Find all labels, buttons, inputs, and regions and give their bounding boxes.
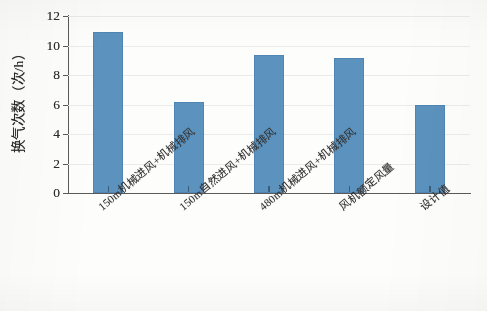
y-axis-tick-label: 2 [34, 156, 60, 172]
y-axis-tick [63, 134, 68, 135]
y-axis-tick-label: 12 [34, 8, 60, 24]
gridline [68, 46, 470, 47]
y-axis-tick-label: 6 [34, 97, 60, 113]
y-axis-tick [63, 46, 68, 47]
y-axis-tick [63, 193, 68, 194]
y-axis-tick [63, 164, 68, 165]
y-axis-tick-labels: 024681012 [28, 0, 60, 311]
y-axis-tick [63, 105, 68, 106]
gridline [68, 16, 470, 17]
y-axis-tick [63, 75, 68, 76]
y-axis-tick-label: 8 [34, 67, 60, 83]
bar[interactable] [93, 32, 123, 193]
plot-area [68, 16, 470, 193]
y-axis-tick-label: 0 [34, 185, 60, 201]
y-axis-title-text: 换气次数（次/h） [7, 47, 27, 154]
y-axis-tick [63, 16, 68, 17]
bar-chart-figure: 换气次数（次/h） 024681012 150m机械进风+机械排风150m自然进… [0, 0, 487, 311]
y-axis-tick-label: 4 [34, 126, 60, 142]
y-axis-tick-label: 10 [34, 38, 60, 54]
